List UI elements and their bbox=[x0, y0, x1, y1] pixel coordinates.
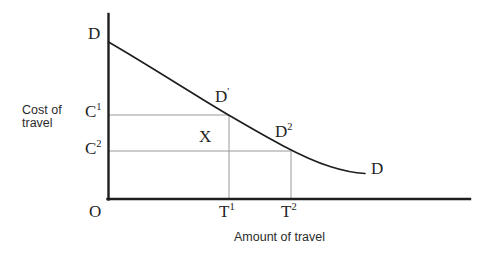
y-tick-c1-base: C bbox=[85, 102, 96, 121]
point-d2-label: D2 bbox=[275, 123, 293, 141]
y-tick-c1-superscript: 1 bbox=[96, 101, 101, 112]
x-tick-t1-superscript: 1 bbox=[229, 201, 234, 212]
curve-end-label: D bbox=[371, 160, 383, 178]
demand-curve bbox=[109, 42, 366, 174]
y-axis-title-line2: travel bbox=[22, 117, 62, 130]
y-tick-c1-label: C1 bbox=[85, 103, 102, 121]
x-tick-t2-base: T bbox=[281, 202, 291, 221]
point-d1-base: D bbox=[215, 87, 227, 106]
region-x-label: X bbox=[199, 128, 211, 146]
x-axis-title: Amount of travel bbox=[234, 231, 325, 244]
y-axis-title: Cost of travel bbox=[22, 104, 62, 130]
axes-lines bbox=[108, 14, 471, 200]
x-tick-t2-superscript: 2 bbox=[291, 201, 296, 212]
point-d2-superscript: 2 bbox=[287, 121, 292, 132]
y-tick-c2-base: C bbox=[85, 139, 96, 158]
origin-label: O bbox=[89, 203, 101, 221]
curve-start-label: D bbox=[88, 25, 100, 43]
point-d1-label: D' bbox=[215, 88, 229, 106]
x-tick-t1-base: T bbox=[219, 202, 229, 221]
x-tick-t2-label: T2 bbox=[281, 203, 297, 221]
point-d1-superscript: ' bbox=[227, 86, 229, 97]
y-tick-c2-superscript: 2 bbox=[96, 138, 101, 149]
x-tick-t1-label: T1 bbox=[219, 203, 235, 221]
y-tick-c2-label: C2 bbox=[85, 140, 102, 158]
chart-canvas bbox=[0, 0, 498, 254]
point-d2-base: D bbox=[275, 122, 287, 141]
